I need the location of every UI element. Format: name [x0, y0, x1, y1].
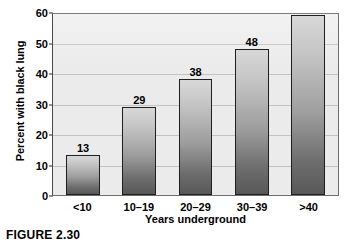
bar-series: 1329384859: [53, 14, 338, 195]
y-tick-label: 40: [26, 69, 48, 80]
bar-value-label: 48: [246, 37, 258, 48]
x-tick-label: 20–29: [167, 200, 224, 214]
bar-slot: 13: [55, 14, 111, 195]
y-tick-label: 50: [26, 39, 48, 50]
bar-value-label: 38: [189, 67, 201, 78]
y-tick-label: 10: [26, 161, 48, 172]
plot-area: 1329384859: [52, 13, 339, 196]
y-axis-ticks: 0102030405060: [26, 0, 48, 245]
bar-slot: 29: [111, 14, 167, 195]
y-tick-label: 30: [26, 100, 48, 111]
y-tick-label: 20: [26, 130, 48, 141]
x-tick-label: >40: [280, 200, 337, 214]
figure-container: Percent with black lung 0102030405060 13…: [0, 0, 354, 245]
bar-slot: 59: [280, 14, 336, 195]
bar-slot: 48: [224, 14, 280, 195]
figure-caption: FIGURE 2.30: [6, 228, 80, 242]
y-axis-title: Percent with black lung: [13, 14, 27, 188]
bar-value-label: 13: [77, 143, 89, 154]
bar-value-label: 29: [133, 95, 145, 106]
bar[interactable]: 59: [291, 15, 325, 195]
x-axis-ticks: <1010–1920–2930–39>40: [52, 200, 339, 214]
bar[interactable]: 38: [179, 79, 213, 195]
bar-slot: 38: [167, 14, 223, 195]
x-tick-label: 30–39: [224, 200, 281, 214]
y-tick-label: 60: [26, 8, 48, 19]
bar-value-label: 59: [302, 13, 314, 14]
bar[interactable]: 48: [235, 49, 269, 195]
x-tick-label: 10–19: [111, 200, 168, 214]
y-tick-label: 0: [26, 191, 48, 202]
bar[interactable]: 13: [66, 155, 100, 195]
x-axis-title: Years underground: [52, 213, 339, 226]
bar[interactable]: 29: [122, 107, 156, 195]
x-tick-label: <10: [54, 200, 111, 214]
